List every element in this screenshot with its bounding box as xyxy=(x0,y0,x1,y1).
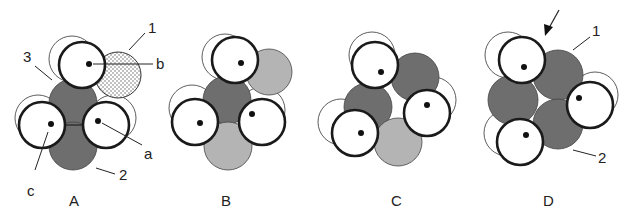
white-circle xyxy=(499,37,545,83)
arrow-down-left-icon xyxy=(544,24,553,36)
panel-label-c: C xyxy=(391,192,402,209)
label-2: 2 xyxy=(119,166,127,183)
label-c: c xyxy=(27,182,35,199)
white-circle xyxy=(352,42,398,88)
center-dot xyxy=(238,60,244,66)
leader-line-2 xyxy=(573,150,596,156)
center-dot xyxy=(95,118,101,124)
panel-a: 1 b a 2 3 c A xyxy=(15,19,164,209)
label-1: 1 xyxy=(592,22,600,39)
white-circle xyxy=(332,110,378,156)
center-dot xyxy=(576,95,582,101)
leader-line-3 xyxy=(35,66,52,80)
white-circle xyxy=(172,99,218,145)
panel-label-d: D xyxy=(543,192,554,209)
center-dot xyxy=(424,102,430,108)
white-circle xyxy=(497,119,543,165)
leader-line-2 xyxy=(96,168,115,174)
white-circle xyxy=(212,37,258,83)
center-dot xyxy=(197,120,203,126)
label-2: 2 xyxy=(598,149,606,166)
label-1: 1 xyxy=(148,19,156,36)
white-circle xyxy=(404,90,450,136)
panel-b: B xyxy=(169,34,292,209)
center-dot xyxy=(249,111,255,117)
center-dot xyxy=(378,69,384,75)
center-dot xyxy=(48,121,54,127)
panel-d: 1 2 D xyxy=(484,10,618,209)
leader-line-1 xyxy=(573,37,590,50)
label-a: a xyxy=(144,145,153,162)
diagram-canvas: 1 b a 2 3 c A B C xyxy=(0,0,625,218)
panel-label-a: A xyxy=(69,192,79,209)
label-3: 3 xyxy=(23,48,31,65)
white-circle xyxy=(59,42,105,88)
panel-label-b: B xyxy=(221,192,231,209)
leader-line-1 xyxy=(129,33,145,50)
white-circle xyxy=(19,102,65,148)
center-dot xyxy=(523,132,529,138)
center-dot xyxy=(521,64,527,70)
arrow-shaft xyxy=(549,10,559,28)
white-circle xyxy=(239,99,285,145)
panel-c: C xyxy=(318,32,456,209)
center-dot xyxy=(86,61,92,67)
white-circle xyxy=(567,82,613,128)
center-dot xyxy=(358,130,364,136)
label-b: b xyxy=(156,55,164,72)
